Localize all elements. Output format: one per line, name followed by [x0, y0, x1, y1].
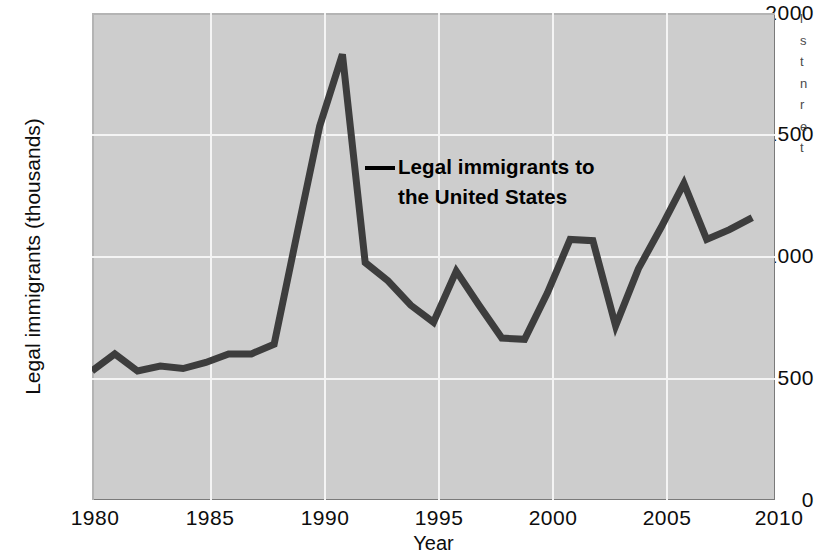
- annotation-label: Legal immigrants tothe United States: [398, 152, 595, 212]
- page-margin-text-line: r: [800, 94, 814, 116]
- annotation-line-2: the United States: [398, 185, 567, 208]
- plot-area: [92, 13, 775, 500]
- x-axis-tick-1985: 1985: [160, 506, 260, 530]
- annotation-leader-line: [365, 166, 395, 170]
- chart-figure: 2000 1500 1000 500 0 Legal immigrants (t…: [0, 0, 814, 550]
- page-margin-text-line: s: [800, 30, 814, 52]
- x-axis-tick-1995: 1995: [389, 506, 489, 530]
- x-axis-tick-1990: 1990: [275, 506, 375, 530]
- page-margin-text-line: l: [800, 8, 814, 30]
- x-axis-label: Year: [92, 532, 775, 550]
- page-margin-text: lstnret: [800, 8, 814, 188]
- x-axis-tick-2010: 2010: [729, 506, 814, 530]
- x-axis-tick-2005: 2005: [617, 506, 717, 530]
- plot-inner: [92, 13, 775, 500]
- annotation-line-1: Legal immigrants to: [398, 155, 595, 178]
- page-margin-text-line: t: [800, 51, 814, 73]
- x-axis-tick-2000: 2000: [503, 506, 603, 530]
- page-margin-text-line: e: [800, 116, 814, 138]
- y-axis-label: Legal immigrants (thousands): [18, 13, 48, 500]
- data-series-line: [92, 13, 775, 500]
- x-axis-tick-1980: 1980: [45, 506, 145, 530]
- page-margin-text-line: t: [800, 137, 814, 159]
- page-margin-text-line: n: [800, 73, 814, 95]
